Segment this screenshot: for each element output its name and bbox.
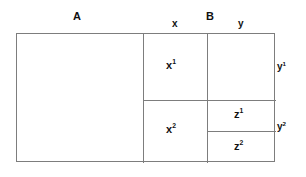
label-cell-z1: z1 [234, 109, 243, 120]
label-column-a-text: A [73, 10, 81, 22]
label-cell-z1-superscript: 1 [240, 107, 244, 114]
label-cell-x2: x2 [166, 124, 176, 135]
label-column-y-text: y [238, 18, 244, 29]
label-row-y2: y2 [277, 122, 286, 132]
label-column-b: B [206, 11, 214, 22]
label-column-y: y [238, 19, 244, 29]
label-column-x-text: x [172, 18, 178, 29]
label-column-x: x [172, 19, 178, 29]
diagram-canvas: A x B y y1 y2 x1 x2 z1 z2 [0, 0, 306, 177]
label-column-a: A [73, 11, 81, 22]
cell-region-a [17, 34, 143, 162]
label-cell-x1: x1 [166, 60, 176, 71]
label-cell-z2: z2 [234, 141, 243, 152]
label-cell-z2-superscript: 2 [240, 139, 244, 146]
cell-region-y1 [208, 34, 275, 100]
label-row-y2-superscript: 2 [283, 120, 286, 127]
label-row-y1: y1 [277, 62, 286, 72]
label-cell-x1-superscript: 1 [172, 58, 176, 65]
label-cell-x2-superscript: 2 [172, 122, 176, 129]
label-column-b-text: B [206, 10, 214, 22]
label-row-y1-superscript: 1 [283, 60, 286, 67]
